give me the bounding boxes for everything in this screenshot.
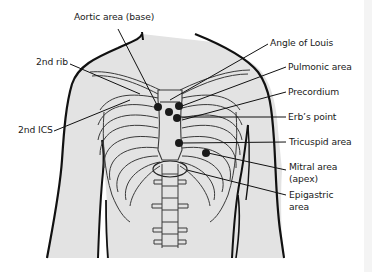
mitral-area-marker <box>202 149 210 157</box>
label-tricuspid-area: Tricuspid area <box>289 137 351 148</box>
torso-silhouette <box>46 32 284 258</box>
tricuspid-area-marker <box>175 139 183 147</box>
erbs-point-marker <box>173 114 181 122</box>
center-marker <box>165 108 173 116</box>
label-mitral-apex: (apex) <box>289 174 318 185</box>
label-epigastric: Epigastric <box>289 190 333 201</box>
label-second-ics: 2nd ICS <box>18 125 53 136</box>
label-aortic-area: Aortic area (base) <box>74 12 154 23</box>
label-angle-of-louis: Angle of Louis <box>270 38 333 49</box>
auscultation-diagram: Aortic area (base) 2nd rib 2nd ICS Angle… <box>0 0 372 272</box>
label-erbs-point: Erb’s point <box>288 112 336 123</box>
label-mitral-area: Mitral area <box>289 162 337 173</box>
aortic-area-marker <box>154 103 162 111</box>
label-precordium: Precordium <box>288 87 339 98</box>
label-epigastric-area: area <box>289 202 309 213</box>
label-second-rib: 2nd rib <box>36 57 68 68</box>
label-pulmonic-area: Pulmonic area <box>288 62 352 73</box>
pulmonic-area-marker <box>175 102 183 110</box>
